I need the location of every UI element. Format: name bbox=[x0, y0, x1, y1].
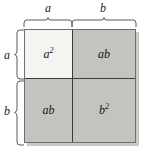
cell-ab-top-right-base: ab bbox=[98, 47, 110, 61]
cell-b-squared-exponent: 2 bbox=[105, 102, 109, 111]
cell-a-squared: a2 bbox=[25, 30, 73, 79]
area-square: a2 ab ab b2 bbox=[24, 29, 136, 143]
left-brace-a-label: a bbox=[4, 49, 10, 61]
cell-a-squared-exponent: 2 bbox=[50, 46, 54, 55]
top-brace-a-label: a bbox=[24, 2, 72, 14]
cell-ab-top-right-label: ab bbox=[98, 47, 110, 62]
cell-b-squared-label: b2 bbox=[99, 103, 109, 118]
cell-b-squared: b2 bbox=[73, 79, 135, 142]
cell-ab-bottom-left-label: ab bbox=[43, 103, 55, 118]
top-brace-a-icon bbox=[23, 17, 73, 28]
left-brace-group: a b bbox=[0, 0, 24, 156]
left-brace-b-label: b bbox=[4, 105, 10, 117]
cell-ab-top-right: ab bbox=[73, 30, 135, 79]
cell-ab-bottom-left: ab bbox=[25, 79, 73, 142]
top-brace-b-label: b bbox=[72, 2, 134, 14]
top-brace-b-icon bbox=[71, 17, 137, 28]
cell-a-squared-label: a2 bbox=[44, 47, 54, 62]
binomial-square-diagram: a b a b a2 ab ab b2 bbox=[0, 0, 145, 156]
cell-ab-bottom-left-base: ab bbox=[43, 103, 55, 117]
